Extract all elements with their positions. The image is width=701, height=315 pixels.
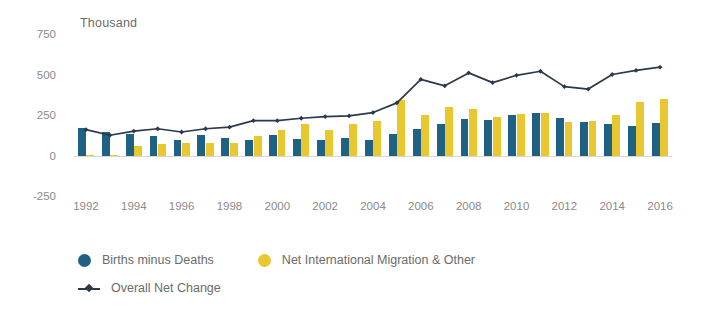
legend: Births minus Deaths Net International Mi… <box>78 246 678 302</box>
x-axis-tick-label: 1998 <box>217 200 243 212</box>
line-marker[interactable] <box>323 114 328 119</box>
line-marker[interactable] <box>347 113 352 118</box>
line-marker[interactable] <box>84 127 89 132</box>
line-marker[interactable] <box>155 126 160 131</box>
y-axis-tick-label: 250 <box>16 109 56 121</box>
line-marker[interactable] <box>203 126 208 131</box>
legend-label: Overall Net Change <box>111 282 221 295</box>
legend-swatch-circle-icon <box>78 254 91 267</box>
line-marker[interactable] <box>251 118 256 123</box>
line-marker[interactable] <box>179 130 184 135</box>
legend-row-2: Overall Net Change <box>78 274 678 302</box>
overall-net-change-line <box>74 34 672 196</box>
line-marker[interactable] <box>514 73 519 78</box>
line-marker[interactable] <box>299 116 304 121</box>
legend-label: Net International Migration & Other <box>282 254 475 267</box>
x-axis-tick-label: 1992 <box>73 200 99 212</box>
line-marker[interactable] <box>371 110 376 115</box>
x-axis-tick-label: 2014 <box>599 200 625 212</box>
x-axis-tick-label: 2016 <box>647 200 673 212</box>
x-axis-tick-label: 1994 <box>121 200 147 212</box>
line-marker[interactable] <box>658 65 663 70</box>
x-axis-tick-label: 1996 <box>169 200 195 212</box>
line-path-overall-net-change <box>86 67 660 135</box>
x-axis-tick-label: 2004 <box>360 200 386 212</box>
line-marker[interactable] <box>275 118 280 123</box>
y-axis-tick-label: -250 <box>16 190 56 202</box>
y-axis-tick-label: 0 <box>16 150 56 162</box>
legend-swatch-line-icon <box>78 282 100 295</box>
legend-item-net-international-migration[interactable]: Net International Migration & Other <box>258 254 475 267</box>
legend-row-1: Births minus Deaths Net International Mi… <box>78 246 678 274</box>
x-axis-tick-label: 2000 <box>265 200 291 212</box>
line-marker[interactable] <box>227 125 232 130</box>
legend-item-births-minus-deaths[interactable]: Births minus Deaths <box>78 254 214 267</box>
chart-container: Thousand -2500250500750 1992199419961998… <box>0 0 701 315</box>
x-axis-tick-label: 2008 <box>456 200 482 212</box>
plot-area <box>74 34 672 196</box>
y-axis-unit-label: Thousand <box>80 16 137 30</box>
line-marker[interactable] <box>634 68 639 73</box>
line-marker[interactable] <box>131 129 136 134</box>
line-marker[interactable] <box>107 133 112 138</box>
legend-label: Births minus Deaths <box>102 254 214 267</box>
legend-swatch-circle-icon <box>258 254 271 267</box>
y-axis-tick-label: 500 <box>16 69 56 81</box>
x-axis-tick-label: 2010 <box>504 200 530 212</box>
x-axis-tick-label: 2006 <box>408 200 434 212</box>
x-axis-tick-label: 2002 <box>312 200 338 212</box>
x-axis-tick-label: 2012 <box>552 200 578 212</box>
x-axis: 1992199419961998200020022004200620082010… <box>74 198 672 218</box>
legend-item-overall-net-change[interactable]: Overall Net Change <box>78 282 221 295</box>
line-marker[interactable] <box>490 80 495 85</box>
y-axis-tick-label: 750 <box>16 28 56 40</box>
y-axis: -2500250500750 <box>0 0 64 315</box>
